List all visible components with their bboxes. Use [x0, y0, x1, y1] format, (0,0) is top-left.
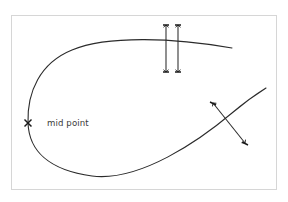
vertical-arrow-left	[163, 25, 169, 72]
diagonal-arrow	[210, 102, 248, 145]
diagram-svg	[0, 0, 288, 202]
vertical-arrow-right	[175, 25, 181, 72]
diagram-canvas: mid point	[0, 0, 288, 202]
mid-point-label: mid point	[47, 118, 89, 128]
teardrop-loop-curve	[28, 40, 266, 177]
